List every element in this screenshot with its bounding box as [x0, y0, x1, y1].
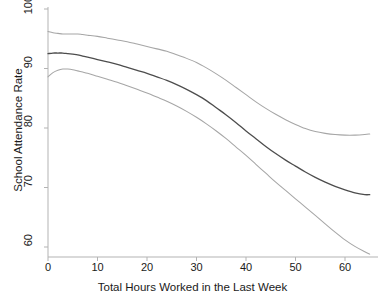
- series-line: [48, 32, 370, 136]
- x-tick-label: 10: [83, 261, 113, 273]
- x-tick-label: 40: [231, 261, 261, 273]
- x-tick-label: 30: [182, 261, 212, 273]
- y-axis-title: School Attendance Rate: [12, 30, 24, 230]
- y-tick-label: 60: [22, 234, 34, 260]
- series-line: [48, 69, 370, 254]
- series-lines: [48, 32, 370, 255]
- x-tick-label: 0: [33, 261, 63, 273]
- x-tick-label: 60: [330, 261, 360, 273]
- plot-canvas: [0, 0, 385, 300]
- attendance-vs-hours-chart: 0102030405060 60708090100 Total Hours Wo…: [0, 0, 385, 300]
- x-axis-title: Total Hours Worked in the Last Week: [0, 281, 385, 293]
- x-tick-label: 50: [281, 261, 311, 273]
- series-line: [48, 53, 370, 195]
- y-tick-label: 100: [22, 0, 34, 22]
- y-axis-ticks: [44, 9, 48, 247]
- x-tick-label: 20: [132, 261, 162, 273]
- axis-lines: [48, 7, 378, 257]
